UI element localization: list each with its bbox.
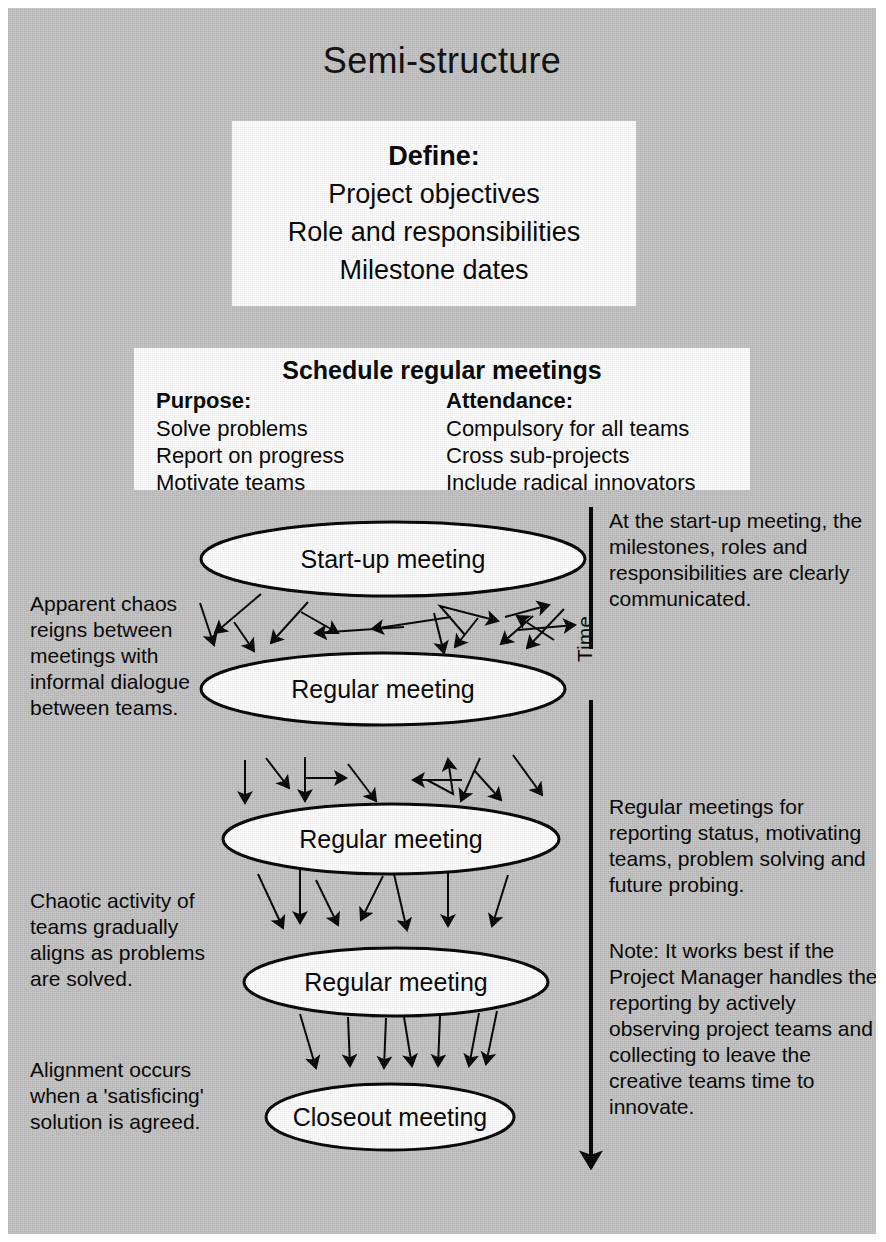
attendance-heading: Attendance: bbox=[446, 387, 736, 415]
attendance-item-3: Include radical innovators bbox=[446, 469, 736, 496]
right-note-startup: At the start-up meeting, the milestones,… bbox=[609, 508, 876, 612]
node-label-closeout-meeting: Closeout meeting bbox=[240, 1103, 540, 1132]
diagram-canvas: Semi-structure Define: Project objective… bbox=[8, 8, 876, 1234]
node-label-regular-meeting-3: Regular meeting bbox=[246, 968, 546, 997]
attendance-column: Attendance: Compulsory for all teams Cro… bbox=[446, 387, 736, 496]
attendance-item-1: Compulsory for all teams bbox=[446, 415, 736, 442]
arrow-field-aligned bbox=[300, 1011, 497, 1068]
purpose-item-1: Solve problems bbox=[156, 415, 446, 442]
define-heading: Define: bbox=[232, 137, 636, 175]
define-line-3: Milestone dates bbox=[232, 251, 636, 289]
left-note-alignment: Alignment occurs when a 'satisficing' so… bbox=[30, 1057, 230, 1135]
arrow-field-aligning bbox=[258, 869, 508, 930]
purpose-item-3: Motivate teams bbox=[156, 469, 446, 496]
right-note-pm: Note: It works best if the Project Manag… bbox=[609, 938, 876, 1120]
schedule-meetings-heading: Schedule regular meetings bbox=[134, 354, 750, 386]
attendance-item-2: Cross sub-projects bbox=[446, 442, 736, 469]
node-label-startup-meeting: Start-up meeting bbox=[243, 545, 543, 574]
schedule-meetings-box: Schedule regular meetings Purpose: Solve… bbox=[134, 348, 750, 490]
define-line-1: Project objectives bbox=[232, 175, 636, 213]
left-note-aligning: Chaotic activity of teams gradually alig… bbox=[30, 888, 230, 992]
diagram-page: Semi-structure Define: Project objective… bbox=[0, 0, 886, 1242]
purpose-heading: Purpose: bbox=[156, 387, 446, 415]
schedule-meetings-columns: Purpose: Solve problems Report on progre… bbox=[134, 387, 750, 496]
purpose-item-2: Report on progress bbox=[156, 442, 446, 469]
time-axis-label: Time bbox=[573, 616, 597, 662]
right-note-regular: Regular meetings for reporting status, m… bbox=[609, 794, 876, 898]
purpose-column: Purpose: Solve problems Report on progre… bbox=[156, 387, 446, 496]
define-line-2: Role and responsibilities bbox=[232, 213, 636, 251]
define-box: Define: Project objectives Role and resp… bbox=[232, 121, 636, 306]
node-label-regular-meeting-2: Regular meeting bbox=[241, 825, 541, 854]
arrow-field-chaotic-2 bbox=[245, 755, 542, 803]
node-label-regular-meeting-1: Regular meeting bbox=[233, 675, 533, 704]
left-note-chaos: Apparent chaos reigns between meetings w… bbox=[30, 591, 220, 721]
arrow-field-chaotic-1 bbox=[200, 594, 575, 653]
